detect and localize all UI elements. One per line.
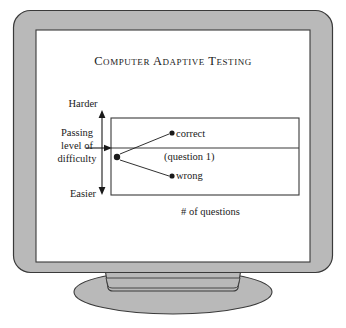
axis-label-passing-level: Passing level of difficulty xyxy=(44,126,110,165)
axis-label-x: # of questions xyxy=(111,206,310,218)
data-label-wrong: wrong xyxy=(176,170,203,181)
axis-label-easier: Easier xyxy=(55,188,111,200)
screen-content: Computer Adaptive Testing xyxy=(36,30,310,262)
axis-label-harder: Harder xyxy=(55,98,111,110)
data-point-correct xyxy=(169,130,174,135)
axis-label-passing-line-1: Passing xyxy=(44,126,110,139)
leader-line-correct xyxy=(120,134,169,154)
axis-label-passing-line-3: difficulty xyxy=(44,152,110,165)
difficulty-axis-up-arrowhead xyxy=(99,110,106,118)
screenshot-root: Computer Adaptive Testing xyxy=(0,0,346,328)
data-label-correct: correct xyxy=(176,128,205,139)
leader-line-wrong xyxy=(120,160,169,176)
data-point-question-1 xyxy=(114,154,120,160)
axis-label-passing-line-2: level of xyxy=(44,139,110,152)
data-label-question-1: (question 1) xyxy=(164,151,214,162)
data-point-wrong xyxy=(169,173,174,178)
monitor-stand-crease xyxy=(106,278,240,288)
